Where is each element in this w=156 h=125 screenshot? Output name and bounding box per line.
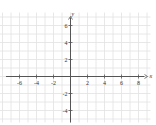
x-tick-label: -4 xyxy=(34,80,39,86)
grid-lines xyxy=(0,13,151,123)
coordinate-plane: xy -6-4-22468642-2-4 xyxy=(0,0,156,125)
x-tick-label: -2 xyxy=(51,80,56,86)
y-axis-label: y xyxy=(71,11,75,17)
x-tick-label: 4 xyxy=(103,80,106,86)
y-tick-label: -2 xyxy=(63,91,68,97)
x-axis-label: x xyxy=(149,73,153,79)
chart-canvas: xy -6-4-22468642-2-4 xyxy=(0,0,156,125)
x-tick-label: -6 xyxy=(17,80,22,86)
y-tick-label: 6 xyxy=(65,23,68,29)
y-tick-label: 2 xyxy=(65,57,68,63)
x-tick-label: 6 xyxy=(120,80,123,86)
y-tick-label: -4 xyxy=(63,108,68,114)
y-tick-label: 4 xyxy=(65,40,68,46)
x-tick-label: 2 xyxy=(86,80,89,86)
x-tick-label: 8 xyxy=(137,80,140,86)
